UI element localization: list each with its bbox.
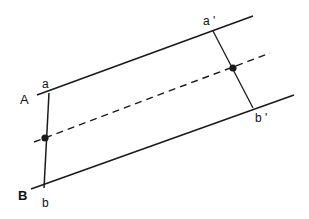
label-B: B bbox=[18, 188, 27, 203]
label-b: b bbox=[42, 196, 49, 210]
label-A: A bbox=[20, 92, 29, 107]
upper-boundary-line bbox=[37, 16, 253, 95]
diagram-svg: A a B b a ' b ' bbox=[0, 0, 309, 219]
left-midpoint-dot bbox=[41, 134, 48, 141]
label-a: a bbox=[42, 77, 49, 91]
lower-boundary-line bbox=[31, 95, 294, 189]
label-a-prime: a ' bbox=[203, 14, 215, 28]
right-midpoint-dot bbox=[229, 64, 236, 71]
diagram-canvas: A a B b a ' b ' bbox=[0, 0, 309, 219]
label-b-prime: b ' bbox=[255, 111, 267, 125]
